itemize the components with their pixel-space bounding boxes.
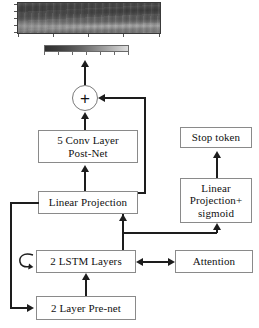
node-conv-postnet-line2: Post-Net (57, 147, 119, 159)
node-linear-projection-sigmoid-line2: Projection+ (190, 194, 243, 206)
node-attention[interactable]: Attention (175, 250, 253, 273)
node-linear-projection-label: Linear Projection (49, 196, 127, 208)
node-lstm-layers-label: 2 LSTM Layers (50, 255, 122, 267)
node-linear-projection-sigmoid[interactable]: Linear Projection+ sigmoid (180, 178, 252, 223)
node-prenet[interactable]: 2 Layer Pre-net (36, 296, 136, 320)
arrowhead-attention-to-lstm (136, 258, 143, 266)
arrowhead-residual-to-sum (98, 94, 105, 102)
node-linear-projection-sigmoid-label: Linear Projection+ sigmoid (190, 182, 243, 219)
lstm-self-loop-icon (18, 251, 36, 271)
spectrogram-texture (18, 3, 160, 33)
spectrogram-y-axis-ticks (12, 2, 17, 34)
node-prenet-label: 2 Layer Pre-net (51, 302, 121, 314)
edge-sum-to-spectrogram (84, 66, 86, 85)
node-attention-label: Attention (193, 255, 235, 267)
edge-prenet-to-lstm (85, 280, 87, 296)
edge-residual-top (104, 97, 146, 99)
arrowhead-linsigmoid-to-stoptoken (213, 151, 221, 158)
edge-branch-to-linsigmoid (122, 232, 217, 234)
edge-branch-vertical-to-linsigmoid (216, 230, 218, 233)
node-linear-projection-sigmoid-line1: Linear (190, 182, 243, 194)
sum-node-label: + (80, 90, 90, 107)
arrowhead-prenet-to-lstm (82, 273, 90, 280)
arrowhead-branch-to-linsigmoid (213, 223, 221, 230)
arrowhead-lstm-to-attention (168, 258, 175, 266)
node-stop-token[interactable]: Stop token (180, 127, 252, 148)
mel-spectrogram (17, 2, 161, 38)
arrowhead-linproj-to-postnet (81, 165, 89, 172)
node-conv-postnet-label: 5 Conv Layer Post-Net (57, 134, 119, 159)
edge-linsigmoid-to-stoptoken (216, 158, 218, 178)
arrowhead-feedback-to-prenet (27, 304, 34, 312)
edge-postnet-to-sum (84, 119, 86, 130)
spectrogram-image (17, 2, 161, 34)
arrowhead-sum-to-spectrogram (81, 60, 89, 67)
node-linear-projection-sigmoid-line3: sigmoid (190, 207, 243, 219)
spectrogram-x-axis-ticks (17, 34, 161, 38)
edge-residual-vertical (144, 97, 146, 193)
node-lstm-layers[interactable]: 2 LSTM Layers (36, 250, 136, 273)
colorbar-gradient (44, 45, 129, 52)
edge-feedback-bottom (10, 307, 28, 309)
arrowhead-lstm-to-linproj (119, 214, 127, 221)
edge-feedback-vertical (10, 202, 12, 308)
node-conv-postnet-line1: 5 Conv Layer (57, 134, 119, 146)
arrowhead-postnet-to-sum (81, 112, 89, 119)
node-conv-postnet[interactable]: 5 Conv Layer Post-Net (38, 130, 138, 163)
colorbar-ticks (44, 52, 129, 56)
spectrogram-colorbar (44, 45, 129, 57)
sum-node: + (72, 85, 98, 111)
node-linear-projection[interactable]: Linear Projection (38, 191, 138, 214)
edge-lstm-attention (141, 261, 171, 263)
edge-linproj-to-postnet (84, 172, 86, 191)
diagram-canvas: + 5 Conv Layer Post-Net Linear Projectio… (0, 0, 259, 328)
edge-feedback-top (10, 202, 39, 204)
node-stop-token-label: Stop token (192, 131, 240, 143)
edge-residual-bottom (137, 192, 146, 194)
